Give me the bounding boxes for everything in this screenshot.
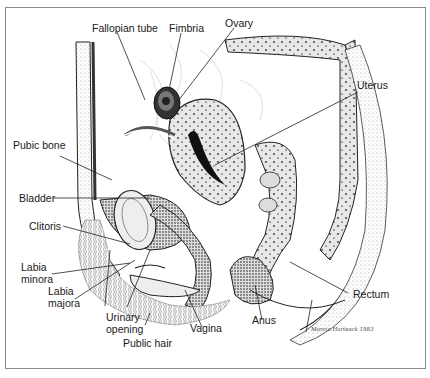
label-clitoris: Clitoris <box>29 220 61 232</box>
label-labia-majora-line2: majora <box>48 297 80 309</box>
artist-signature: Marcia Hartsock 1983 <box>311 326 374 332</box>
uterus-shape <box>169 99 245 205</box>
label-uterus: Uterus <box>357 79 388 91</box>
label-ovary: Ovary <box>225 17 253 29</box>
label-vagina: Vagina <box>190 322 222 334</box>
label-urinary-opening-line2: opening <box>106 323 143 335</box>
label-urinary-opening: Urinary opening <box>106 311 143 335</box>
label-labia-minora: Labia minora <box>21 261 53 285</box>
label-labia-majora: Labia majora <box>48 285 80 309</box>
label-fallopian-tube: Fallopian tube <box>92 22 158 34</box>
label-rectum: Rectum <box>353 288 389 300</box>
label-anus: Anus <box>252 314 276 326</box>
label-public-hair: Public hair <box>123 337 172 349</box>
clitoris-shape <box>135 265 165 268</box>
label-labia-minora-line2: minora <box>21 273 53 285</box>
label-fimbria: Fimbria <box>169 22 204 34</box>
label-labia-majora-line1: Labia <box>48 285 80 297</box>
label-pubic-bone: Pubic bone <box>13 139 66 151</box>
label-urinary-opening-line1: Urinary <box>106 311 143 323</box>
label-labia-minora-line1: Labia <box>21 261 53 273</box>
muscle-layer <box>93 42 95 200</box>
label-bladder: Bladder <box>19 192 55 204</box>
